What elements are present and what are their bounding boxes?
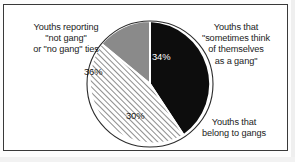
scan-edge-right bbox=[291, 0, 295, 162]
scan-edge-bottom bbox=[0, 157, 295, 162]
slice-value-belong-to-gangs: 30% bbox=[126, 110, 144, 121]
slice-value-sometimes-think: 34% bbox=[152, 51, 170, 62]
slice-label-not-gang: Youths reporting "not gang" or "no gang"… bbox=[14, 22, 118, 56]
chart-screenshot: 34% 36% 30% Youths reporting "not gang" … bbox=[0, 0, 295, 162]
slice-label-belong-to-gangs: Youths that belong to gangs bbox=[182, 117, 286, 139]
slice-value-not-gang: 36% bbox=[84, 66, 102, 77]
slice-label-sometimes-think: Youths that "sometimes think of themselv… bbox=[186, 22, 286, 67]
